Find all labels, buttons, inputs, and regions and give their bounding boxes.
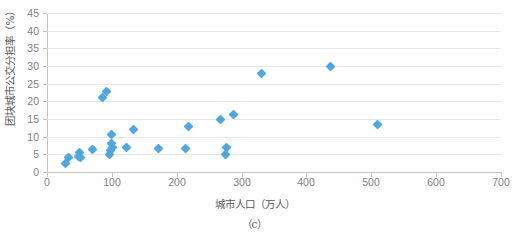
gridline — [47, 84, 501, 85]
y-axis-tick — [43, 101, 47, 102]
y-axis-tick — [43, 66, 47, 67]
y-axis-tick — [43, 13, 47, 14]
gridline — [47, 119, 501, 120]
x-axis-tick-label: 200 — [157, 177, 197, 188]
gridline — [47, 66, 501, 67]
gridline — [47, 13, 501, 14]
y-axis-tick-label: 5 — [0, 149, 39, 159]
x-axis-tick-label: 300 — [222, 177, 262, 188]
y-axis-tick — [43, 137, 47, 138]
y-axis-title: 团块城市公交分担率（%） — [2, 0, 17, 136]
x-axis-title: 城市人口（万人） — [0, 196, 509, 211]
gridline — [47, 31, 501, 32]
x-axis-tick-label: 400 — [286, 177, 326, 188]
y-axis-tick — [43, 31, 47, 32]
x-axis-tick-label: 700 — [481, 177, 515, 188]
gridline — [47, 101, 501, 102]
y-axis-line — [47, 13, 48, 173]
y-axis-tick — [43, 84, 47, 85]
gridline — [47, 48, 501, 49]
gridline — [47, 137, 501, 138]
y-axis-tick — [43, 154, 47, 155]
y-axis-tick — [43, 119, 47, 120]
x-axis-tick-label: 500 — [351, 177, 391, 188]
x-axis-tick-label: 100 — [92, 177, 132, 188]
gridline — [47, 154, 501, 155]
x-axis-line — [47, 172, 502, 173]
x-axis-tick-label: 600 — [416, 177, 456, 188]
y-axis-tick — [43, 48, 47, 49]
y-axis-tick-label: 0 — [0, 167, 39, 177]
figure-caption: （c） — [0, 216, 509, 231]
x-axis-tick-label: 0 — [27, 177, 67, 188]
